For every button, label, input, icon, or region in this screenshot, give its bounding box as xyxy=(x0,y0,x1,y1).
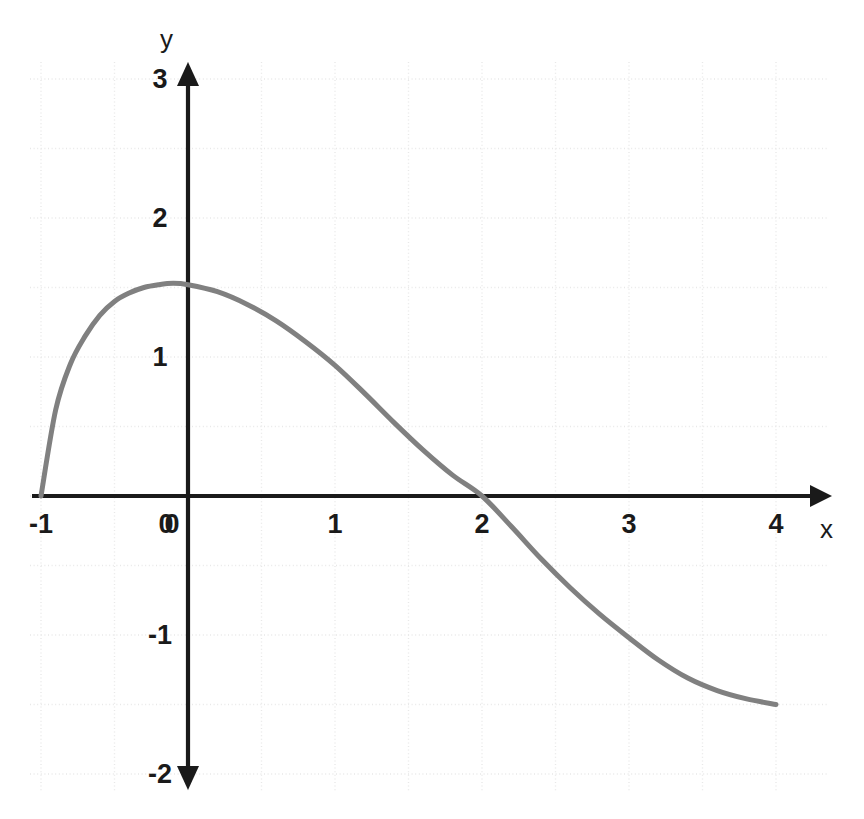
cartesian-plot xyxy=(0,0,864,819)
x-tick-label-1: 1 xyxy=(328,511,343,538)
x-axis-label: x xyxy=(820,516,833,542)
y-axis-label: y xyxy=(160,26,173,52)
x-tick-label-2: 2 xyxy=(475,511,490,538)
x-tick-label-4: 4 xyxy=(769,511,784,538)
grid-lines xyxy=(30,62,828,792)
x-tick-label-neg1: -1 xyxy=(29,511,53,538)
x-tick-label-3: 3 xyxy=(622,511,637,538)
y-tick-label-3: 3 xyxy=(153,66,168,93)
axis-lines xyxy=(32,62,832,790)
y-tick-label-neg2: -2 xyxy=(148,761,172,788)
y-tick-label-1: 1 xyxy=(153,344,168,371)
y-tick-label-neg1: -1 xyxy=(148,622,172,649)
graph-canvas: -101234321-1-20 y x xyxy=(0,0,864,819)
origin-label: 0 xyxy=(159,511,174,538)
y-tick-label-2: 2 xyxy=(153,205,168,232)
